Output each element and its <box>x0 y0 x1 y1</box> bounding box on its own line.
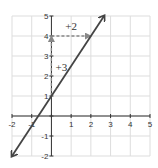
x-tick-label: 2 <box>89 120 94 129</box>
x-tick-label: 5 <box>148 120 153 129</box>
annotation-label: +2 <box>65 20 77 32</box>
tick-labels: -2-112345-2-112345 <box>8 12 152 161</box>
y-tick-label: 2 <box>44 72 49 81</box>
series-line <box>12 16 104 156</box>
x-tick-label: 1 <box>69 120 74 129</box>
y-tick-label: 5 <box>44 12 49 21</box>
x-tick-label: -2 <box>8 120 16 129</box>
x-tick-label: 4 <box>128 120 133 129</box>
annotation-label: +3 <box>55 61 67 73</box>
grid <box>12 16 150 156</box>
axes <box>12 16 150 156</box>
line-chart: -2-112345-2-112345 +3+2 <box>0 0 158 168</box>
y-tick-label: 4 <box>44 32 49 41</box>
y-tick-label: -1 <box>41 132 49 141</box>
y-tick-label: -2 <box>41 152 49 161</box>
x-tick-label: 3 <box>108 120 113 129</box>
data-line <box>12 16 104 156</box>
y-tick-label: 3 <box>44 52 49 61</box>
